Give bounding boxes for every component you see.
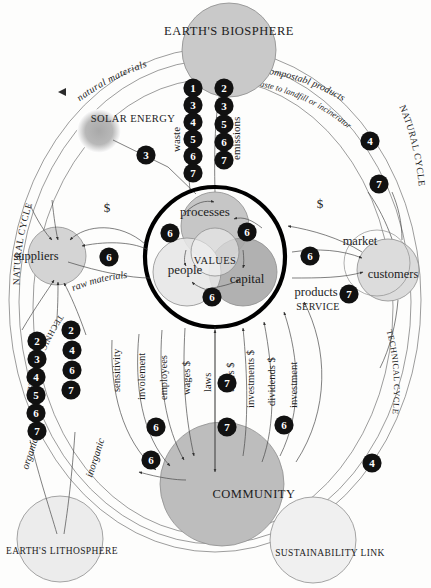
label-money-suppliers: $ xyxy=(104,200,111,215)
label-earths-biosphere: EARTH'S BIOSPHERE xyxy=(164,24,294,38)
label-capital: capital xyxy=(230,271,265,286)
label-laws: laws xyxy=(202,373,213,392)
badge-label: 4 xyxy=(367,135,373,147)
badge-label: 2 xyxy=(34,335,40,347)
badge[interactable]: 3 xyxy=(27,349,46,368)
badge[interactable]: 6 xyxy=(237,222,256,241)
badge-label: 7 xyxy=(34,425,40,437)
badge[interactable]: 6 xyxy=(146,417,165,436)
label-suppliers: suppliers xyxy=(13,249,58,263)
badge[interactable]: 4 xyxy=(183,112,202,131)
badge[interactable]: 7 xyxy=(27,421,46,440)
badge-label: 4 xyxy=(33,371,39,383)
badge-label: 7 xyxy=(224,421,230,433)
node-sustainability-link: SUSTAINABILITY LINK xyxy=(270,497,385,583)
badge-label: 7 xyxy=(376,178,382,190)
label-investments: investments $ xyxy=(245,350,256,408)
badge[interactable]: 6 xyxy=(160,223,179,242)
badge[interactable]: 3 xyxy=(214,96,233,115)
badge-label: 6 xyxy=(244,226,250,238)
label-service: SERVICE xyxy=(296,301,340,312)
label-market: market xyxy=(343,234,378,248)
badge-label: 3 xyxy=(143,149,149,161)
label-dividends: dividends $ xyxy=(266,357,277,406)
label-customers: customers xyxy=(368,267,419,281)
badge[interactable]: 6 xyxy=(300,246,319,265)
node-suppliers: suppliers $ raw materials xyxy=(13,200,150,335)
badge-group-emissions-column: 2 3 5 6 7 xyxy=(214,78,233,169)
badge-label: 5 xyxy=(190,133,196,145)
badge-label: 6 xyxy=(106,251,112,263)
badge-label: 6 xyxy=(209,291,215,303)
badge-label: 6 xyxy=(281,419,287,431)
label-inorganic: inorganic xyxy=(83,436,106,478)
label-natural-cycle-right: NATURAL CYCLE xyxy=(397,104,426,187)
badge[interactable]: 6 xyxy=(141,450,160,469)
badge[interactable]: 6 xyxy=(202,287,221,306)
badge-label: 3 xyxy=(221,100,227,112)
badge[interactable]: 3 xyxy=(183,95,202,114)
diagram-canvas: NATURAL CYCLE natural materials NATURAL … xyxy=(0,0,431,588)
badge-label: 6 xyxy=(167,227,173,239)
badge[interactable]: 7 xyxy=(183,163,202,182)
badge[interactable]: 2 xyxy=(61,320,80,339)
badge[interactable]: 5 xyxy=(214,114,233,133)
label-involement: involement xyxy=(136,353,147,400)
label-community: COMMUNITY xyxy=(213,487,296,501)
badge-label: 6 xyxy=(69,364,75,376)
badge-label: 7 xyxy=(190,167,196,179)
badge[interactable]: 6 xyxy=(99,247,118,266)
badge[interactable]: 5 xyxy=(26,385,45,404)
label-processes: processes xyxy=(180,204,230,219)
badge[interactable]: 7 xyxy=(214,150,233,169)
badge-group-technical-right: 4 xyxy=(362,453,381,472)
badge-label: 4 xyxy=(190,116,196,128)
badge-label: 5 xyxy=(33,389,39,401)
badge[interactable]: 2 xyxy=(214,78,233,97)
badge-label: 7 xyxy=(224,377,230,389)
badge[interactable]: 7 xyxy=(339,284,358,303)
node-earths-lithosphere: EARTH'S LITHOSPHERE organic inorganic xyxy=(6,432,118,582)
badge[interactable]: 4 xyxy=(362,453,381,472)
badge-label: 6 xyxy=(33,407,39,419)
badge-label: 4 xyxy=(369,457,375,469)
badge[interactable]: 7 xyxy=(217,417,236,436)
label-wages: wages $ xyxy=(181,361,192,395)
badge-label: 3 xyxy=(34,353,40,365)
label-money-customers: $ xyxy=(317,196,324,211)
badge-group-waste-column: 1 3 4 5 6 7 xyxy=(183,78,202,182)
badge[interactable]: 4 xyxy=(26,367,45,386)
badge[interactable]: 7 xyxy=(217,373,236,392)
badge[interactable]: 2 xyxy=(27,331,46,350)
badge-label: 6 xyxy=(221,136,227,148)
badge-label: 2 xyxy=(221,82,227,94)
badge[interactable]: 4 xyxy=(62,340,81,359)
badge[interactable]: 4 xyxy=(360,131,379,150)
badge[interactable]: 5 xyxy=(183,129,202,148)
community-flow-labels: sensitivity involement employees wages $… xyxy=(111,348,299,408)
badge[interactable]: 3 xyxy=(136,145,155,164)
badge[interactable]: 6 xyxy=(214,132,233,151)
badge-group-suppliers-link: 6 xyxy=(99,247,118,266)
badge[interactable]: 6 xyxy=(26,403,45,422)
badge-label: 7 xyxy=(221,154,227,166)
label-sensitivity: sensitivity xyxy=(111,348,122,392)
label-employees: employees xyxy=(158,355,169,400)
badge[interactable]: 6 xyxy=(183,146,202,165)
badge-label: 6 xyxy=(153,421,159,433)
badge[interactable]: 7 xyxy=(369,174,388,193)
label-waste-to-landfill: waste to landfill or incinerator xyxy=(254,77,354,131)
badge-label: 2 xyxy=(68,324,74,336)
badge[interactable]: 6 xyxy=(274,415,293,434)
label-values: VALUES xyxy=(194,255,236,266)
badge-label: 6 xyxy=(148,454,154,466)
badge-group-technical-left-outer: 2 4 6 7 xyxy=(61,320,81,399)
badge[interactable]: 7 xyxy=(61,380,80,399)
label-waste: waste xyxy=(170,127,182,152)
badge-label: 6 xyxy=(307,250,313,262)
badge[interactable]: 6 xyxy=(62,360,81,379)
badge-label: 3 xyxy=(190,99,196,111)
badge-label: 5 xyxy=(221,118,227,130)
badge-label: 7 xyxy=(346,288,352,300)
badge[interactable]: 1 xyxy=(183,78,202,97)
